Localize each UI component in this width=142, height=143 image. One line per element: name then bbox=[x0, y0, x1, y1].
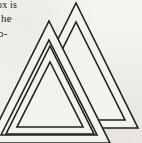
valknut-triangles bbox=[0, 3, 138, 143]
valknut-figure bbox=[0, 0, 142, 143]
valknut-illustration bbox=[0, 0, 142, 143]
scanned-page: ox is he o- bbox=[0, 0, 142, 143]
